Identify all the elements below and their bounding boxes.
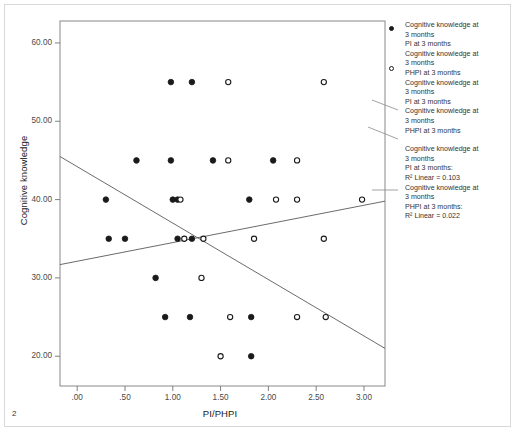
data-point-phpi: [359, 197, 364, 202]
data-point-phpi: [251, 236, 256, 241]
data-point-pi: [106, 236, 112, 242]
y-axis-tick-label: 60.00: [12, 38, 52, 47]
data-point-phpi: [273, 197, 278, 202]
x-axis-tick-label: 3.00: [344, 393, 384, 402]
data-point-pi: [168, 79, 174, 85]
data-point-phpi: [294, 314, 299, 319]
data-point-phpi: [226, 79, 231, 84]
plot-area-border: [60, 21, 385, 386]
data-point-phpi: [182, 236, 187, 241]
regression-line: [60, 201, 385, 264]
legend-entry-line: PI at 3 months: [405, 98, 511, 108]
legend-entry-line: Cognitive knowledge at: [405, 145, 511, 155]
x-axis-tick-label: 2.50: [296, 393, 336, 402]
data-point-pi: [103, 197, 109, 203]
data-point-pi: [175, 236, 181, 242]
legend-entry-line: PI at 3 months:: [405, 164, 511, 174]
data-point-phpi: [218, 354, 223, 359]
legend-entry-line: 3 months: [405, 31, 511, 41]
data-point-phpi: [321, 236, 326, 241]
data-point-phpi: [199, 275, 204, 280]
data-point-pi: [134, 158, 140, 164]
legend-entry-line: Cognitive knowledge at: [405, 79, 511, 89]
legend-entry-line: PI at 3 months: [405, 40, 511, 50]
legend-leader-line: [368, 127, 398, 139]
legend-entry-line: PHPI at 3 months: [405, 69, 511, 79]
legend-entry-line: R² Linear = 0.103: [405, 174, 511, 184]
legend-entry: Cognitive knowledge at3 monthsPHPI at 3 …: [405, 50, 511, 79]
x-axis-tick-label: 1.00: [153, 393, 193, 402]
legend-spacer: [405, 136, 511, 145]
legend-marker-hollow-circle-icon: [389, 66, 394, 71]
data-point-pi: [246, 197, 252, 203]
data-point-pi: [270, 158, 276, 164]
legend-marker-filled-circle-icon: [389, 26, 394, 31]
x-axis-title: PI/PHPI: [60, 408, 380, 419]
y-axis-tick-label: 50.00: [12, 116, 52, 125]
legend-entry-line: 3 months: [405, 155, 511, 165]
legend-entry-line: 3 months: [405, 88, 511, 98]
x-axis-tick-label: .50: [105, 393, 145, 402]
y-axis-title: Cognitive knowledge: [18, 111, 29, 251]
legend-entry-line: Cognitive knowledge at: [405, 107, 511, 117]
data-point-phpi: [201, 236, 206, 241]
data-point-phpi: [226, 158, 231, 163]
x-axis-tick-label: 2.00: [248, 393, 288, 402]
data-point-pi: [187, 314, 193, 320]
legend-entry-line: PHPI at 3 months:: [405, 203, 511, 213]
chart-legend: Cognitive knowledge at3 monthsPI at 3 mo…: [405, 21, 511, 222]
legend-entry-line: Cognitive knowledge at: [405, 50, 511, 60]
data-point-pi: [210, 158, 216, 164]
legend-entry: Cognitive knowledge at3 monthsPI at 3 mo…: [405, 145, 511, 183]
data-point-phpi: [228, 314, 233, 319]
page-number: 2: [12, 409, 16, 418]
data-point-pi: [153, 275, 159, 281]
y-axis-tick-label: 40.00: [12, 195, 52, 204]
regression-line: [60, 157, 385, 349]
legend-entry-line: PHPI at 3 months: [405, 127, 511, 137]
legend-entry-line: Cognitive knowledge at: [405, 184, 511, 194]
data-point-pi: [189, 236, 195, 242]
data-point-pi: [122, 236, 128, 242]
y-axis-tick-label: 20.00: [12, 351, 52, 360]
data-point-pi: [248, 353, 254, 359]
x-axis-tick-label: 1.50: [201, 393, 241, 402]
legend-entry-line: 3 months: [405, 59, 511, 69]
x-axis-tick-label: .00: [57, 393, 97, 402]
data-point-pi: [248, 314, 254, 320]
legend-entry: Cognitive knowledge at3 monthsPHPI at 3 …: [405, 184, 511, 222]
y-axis-tick-label: 30.00: [12, 273, 52, 282]
data-point-phpi: [294, 158, 299, 163]
data-point-pi: [168, 158, 174, 164]
legend-entry-line: R² Linear = 0.022: [405, 212, 511, 222]
legend-entry: Cognitive knowledge at3 monthsPHPI at 3 …: [405, 107, 511, 136]
legend-entry: Cognitive knowledge at3 monthsPI at 3 mo…: [405, 79, 511, 108]
legend-entry-line: Cognitive knowledge at: [405, 21, 511, 31]
data-point-phpi: [178, 197, 183, 202]
legend-entry: Cognitive knowledge at3 monthsPI at 3 mo…: [405, 21, 511, 50]
legend-entry-line: 3 months: [405, 117, 511, 127]
legend-entry-line: 3 months: [405, 193, 511, 203]
data-point-pi: [189, 79, 195, 85]
data-point-pi: [162, 314, 168, 320]
data-point-phpi: [323, 314, 328, 319]
data-point-phpi: [321, 79, 326, 84]
data-point-phpi: [294, 197, 299, 202]
